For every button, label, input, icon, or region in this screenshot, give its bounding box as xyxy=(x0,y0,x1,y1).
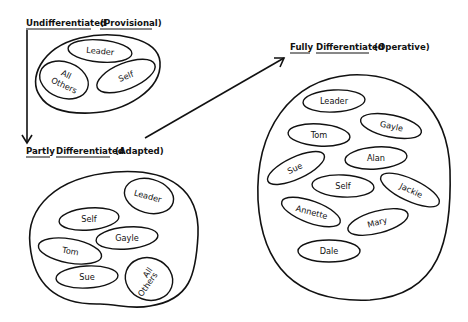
member-label-gayle: Gayle xyxy=(379,119,404,134)
member-label-gayle: Gayle xyxy=(115,233,139,243)
group-differentiation-diagram: Undifferentiated (Provisional) Leader Al… xyxy=(0,0,468,322)
stage-fully-differentiated: Fully Differentiated (Operative) Leader … xyxy=(258,42,450,300)
stage-qualifier-provisional: (Provisional) xyxy=(100,18,162,28)
member-label-self: Self xyxy=(117,68,136,83)
stage-title-partly: Partly xyxy=(26,146,55,156)
member-label-alan: Alan xyxy=(367,153,385,163)
member-label-sue: Sue xyxy=(286,160,304,176)
arrow-shaft xyxy=(145,58,284,138)
stage-qualifier-adapted: (Adapted) xyxy=(115,146,164,156)
stage-undifferentiated: Undifferentiated (Provisional) Leader Al… xyxy=(26,18,162,113)
stage-title-undifferentiated: Undifferentiated xyxy=(26,18,106,28)
member-label-leader: Leader xyxy=(320,96,349,106)
stage-partly-differentiated: Partly Differentiated (Adapted) Leader S… xyxy=(26,146,198,307)
arrow-up-right xyxy=(145,58,284,138)
member-label-leader: Leader xyxy=(133,188,163,205)
group-boundary-partly xyxy=(30,172,198,308)
member-label-dale: Dale xyxy=(320,246,339,256)
member-label-leader: Leader xyxy=(86,45,115,57)
member-label-self: Self xyxy=(81,214,98,224)
arrow-down xyxy=(22,30,32,143)
member-label-self: Self xyxy=(335,181,352,191)
member-label-others: Others xyxy=(136,270,160,298)
stage-title-fully: Fully xyxy=(290,42,313,52)
member-label-mary: Mary xyxy=(366,215,388,230)
member-label-tom: Tom xyxy=(310,130,328,140)
member-label-tom: Tom xyxy=(60,245,79,258)
member-label-sue: Sue xyxy=(79,272,94,282)
stage-qualifier-operative: (Operative) xyxy=(374,42,430,52)
stage-title-differentiated: Differentiated xyxy=(56,146,124,156)
